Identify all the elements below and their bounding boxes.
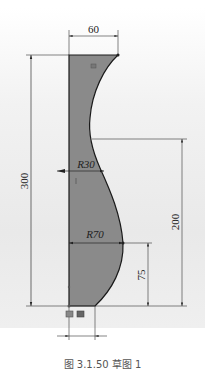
sketch-figure: 60 300 200 75 R30 R70 — [0, 0, 205, 389]
dimension-300-label: 300 — [18, 172, 30, 189]
horizontal-icon — [77, 311, 84, 317]
radius-r70-label: R70 — [85, 228, 104, 240]
dimension-75-label: 75 — [135, 269, 147, 281]
figure-caption: 图 3.1.50 草图 1 — [0, 356, 205, 371]
dimension-200-label: 200 — [169, 213, 181, 230]
dimension-60-label: 60 — [88, 23, 100, 35]
relation-icon — [91, 64, 96, 68]
sketch-drawing: 60 300 200 75 R30 R70 — [0, 0, 205, 389]
radius-r30-label: R30 — [76, 158, 95, 170]
coincident-icon — [66, 311, 73, 317]
sketch-profile — [69, 55, 123, 306]
